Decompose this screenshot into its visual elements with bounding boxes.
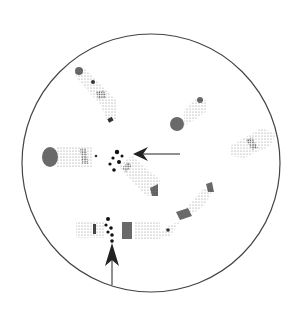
chromosome-1 [74, 67, 116, 123]
chromosome-2 [170, 97, 206, 131]
arrow-vertical [105, 243, 119, 285]
chromosome-3 [230, 128, 276, 158]
arrow-horizontal [133, 147, 180, 161]
chromosome-figure [0, 0, 299, 325]
